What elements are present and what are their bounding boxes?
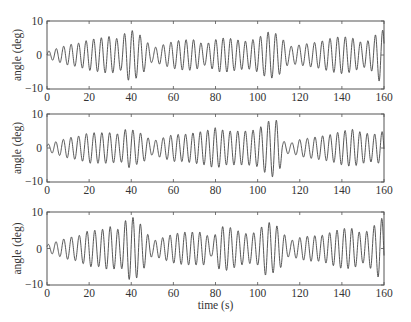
y-tick-label: 10 (32, 108, 44, 120)
chart-figure: 020406080100120140160100−10angle (deg)02… (0, 0, 411, 322)
x-tick-label: 0 (44, 184, 50, 196)
x-tick-label: 100 (249, 287, 267, 299)
y-axis-label: angle (deg) (11, 122, 24, 174)
x-tick-label: 160 (375, 287, 393, 299)
axes-frame (47, 21, 384, 89)
axes-frame (47, 212, 384, 285)
x-tick-label: 20 (83, 91, 95, 103)
x-tick-label: 160 (375, 91, 393, 103)
x-tick-label: 40 (126, 184, 138, 196)
panel-3: 020406080100120140160100−10angle (deg)ti… (11, 206, 393, 312)
panel-2: 020406080100120140160100−10angle (deg) (11, 108, 393, 196)
y-tick-label: −10 (25, 175, 43, 187)
angle-series-line (47, 120, 384, 177)
x-tick-label: 120 (291, 287, 309, 299)
x-tick-label: 80 (210, 287, 222, 299)
x-tick-label: 140 (333, 287, 351, 299)
y-tick-label: 0 (36, 142, 42, 154)
y-tick-label: 10 (32, 15, 44, 27)
x-tick-label: 100 (249, 184, 267, 196)
x-tick-label: 60 (168, 184, 180, 196)
y-tick-label: −10 (25, 82, 43, 94)
y-tick-label: 10 (32, 206, 44, 218)
x-tick-label: 100 (249, 91, 267, 103)
x-tick-label: 80 (210, 184, 222, 196)
angle-series-line (47, 30, 384, 81)
x-tick-label: 20 (83, 287, 95, 299)
x-tick-label: 80 (210, 91, 222, 103)
x-tick-label: 120 (291, 91, 309, 103)
x-axis-label: time (s) (198, 299, 234, 312)
y-axis-label: angle (deg) (11, 29, 24, 81)
y-tick-label: 0 (36, 49, 42, 61)
x-tick-label: 120 (291, 184, 309, 196)
x-tick-label: 0 (44, 287, 50, 299)
x-tick-label: 0 (44, 91, 50, 103)
x-tick-label: 140 (333, 184, 351, 196)
x-tick-label: 40 (126, 91, 138, 103)
x-tick-label: 60 (168, 287, 180, 299)
y-tick-label: 0 (36, 243, 42, 255)
x-tick-label: 140 (333, 91, 351, 103)
panel-1: 020406080100120140160100−10angle (deg) (11, 15, 393, 103)
y-tick-label: −10 (25, 278, 43, 290)
y-axis-label: angle (deg) (11, 222, 24, 274)
x-tick-label: 20 (83, 184, 95, 196)
x-tick-label: 40 (126, 287, 138, 299)
x-tick-label: 160 (375, 184, 393, 196)
axes-frame (47, 114, 384, 182)
x-tick-label: 60 (168, 91, 180, 103)
angle-series-line (47, 217, 384, 279)
